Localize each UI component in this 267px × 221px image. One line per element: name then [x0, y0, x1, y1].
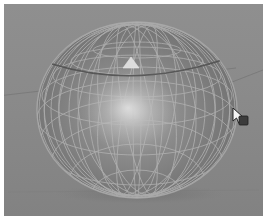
scene-render: [4, 4, 263, 216]
specular-highlight: [80, 68, 176, 148]
viewport-canvas[interactable]: [4, 4, 263, 216]
screenshot-root: [0, 0, 267, 221]
viewport-3d[interactable]: [4, 4, 263, 216]
